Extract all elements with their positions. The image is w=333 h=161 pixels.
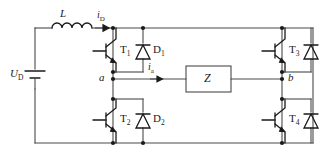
- t2-symbol: T: [120, 112, 127, 124]
- current-ia-label: ia: [148, 62, 154, 75]
- d1-label: D1: [153, 44, 165, 58]
- d2-subscript: 2: [161, 118, 165, 127]
- junction-dot-leg-a-bottom: [111, 141, 115, 145]
- t4-emitter-lead: [275, 124, 285, 143]
- t3-subscript: 3: [296, 49, 300, 58]
- source-symbol: U: [10, 67, 18, 79]
- junction-dot-d2-bottom: [141, 141, 145, 145]
- t4-collector-lead: [275, 99, 285, 116]
- current-arrow-id-head: [103, 25, 109, 31]
- current-arrow-ia-head: [157, 76, 163, 82]
- d4-triangle: [304, 114, 318, 128]
- current-id-label: iD: [97, 10, 105, 23]
- t2-emitter-lead: [106, 124, 116, 143]
- t3-symbol: T: [289, 43, 296, 55]
- t1-symbol: T: [120, 43, 127, 55]
- node-b-label: b: [288, 72, 294, 83]
- t3-label: T3: [289, 44, 299, 58]
- t3-emitter-arrow: [280, 58, 285, 62]
- inductor-label: L: [60, 8, 66, 19]
- node-a-label: a: [99, 72, 105, 83]
- t1-subscript: 1: [127, 49, 131, 58]
- d2-triangle: [136, 114, 150, 128]
- t4-symbol: T: [289, 112, 296, 124]
- t2-label: T2: [120, 113, 130, 127]
- source-label: UD: [10, 68, 23, 82]
- t2-subscript: 2: [127, 118, 131, 127]
- d3-triangle: [304, 45, 318, 59]
- t2-emitter-arrow: [111, 127, 116, 131]
- t3-emitter-lead: [275, 55, 285, 72]
- t4-emitter-arrow: [280, 127, 285, 131]
- junction-dot-t1-emitter: [111, 70, 115, 74]
- inductor-coil: [52, 23, 92, 28]
- t2-collector-lead: [106, 99, 116, 116]
- junction-dot-leg-b-bottom: [280, 141, 284, 145]
- junction-dot-node-a: [111, 77, 115, 81]
- t1-label: T1: [120, 44, 130, 58]
- d1-triangle: [136, 45, 150, 59]
- junction-dot-leg-b-top: [280, 26, 284, 30]
- t4-label: T4: [289, 113, 299, 127]
- t4-subscript: 4: [296, 118, 300, 127]
- junction-dot-leg-a-top: [111, 26, 115, 30]
- d2-label: D2: [153, 113, 165, 127]
- current-ia-subscript: a: [151, 67, 154, 75]
- junction-dot-t3-emitter: [280, 70, 284, 74]
- source-subscript: D: [18, 73, 23, 82]
- t1-emitter-arrow: [111, 58, 116, 62]
- junction-dot-d1-top: [141, 26, 145, 30]
- t3-collector-lead: [275, 28, 285, 47]
- t1-collector-lead: [106, 28, 116, 47]
- t1-emitter-lead: [106, 55, 116, 72]
- junction-dot-t2-collector: [111, 97, 115, 101]
- current-id-subscript: D: [100, 15, 105, 23]
- d2-symbol: D: [153, 112, 161, 124]
- junction-dot-node-b: [280, 77, 284, 81]
- junction-dot-t4-collector: [280, 97, 284, 101]
- load-label: Z: [204, 72, 211, 84]
- d1-subscript: 1: [161, 49, 165, 58]
- d1-symbol: D: [153, 43, 161, 55]
- circuit-schematic-svg: [0, 0, 333, 161]
- circuit-diagram-canvas: L iD UD T1 T2 T3 T4 D1 D2 a b ia Z: [0, 0, 333, 161]
